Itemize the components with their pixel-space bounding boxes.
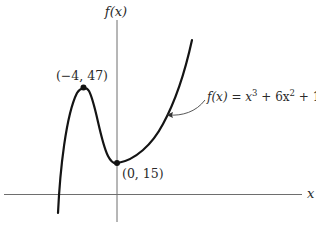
function-curve: [58, 40, 192, 213]
equation-lhs: f(x) = x: [206, 90, 252, 104]
local-max-label: (−4, 47): [56, 68, 108, 83]
local-max-point: [81, 85, 87, 91]
equation-middle: + 6x: [257, 90, 289, 104]
equation-annotation: f(x) = x3 + 6x2 + 15: [206, 88, 316, 104]
y-axis-label: f(x): [104, 4, 127, 19]
local-min-label: (0, 15): [122, 166, 164, 181]
local-min-point: [114, 160, 120, 166]
x-axis-label: x: [307, 186, 315, 201]
equation-rhs: + 15: [295, 90, 316, 104]
function-graph: f(x) x (−4, 47) (0, 15) f(x) = x3 + 6x2 …: [0, 0, 316, 227]
